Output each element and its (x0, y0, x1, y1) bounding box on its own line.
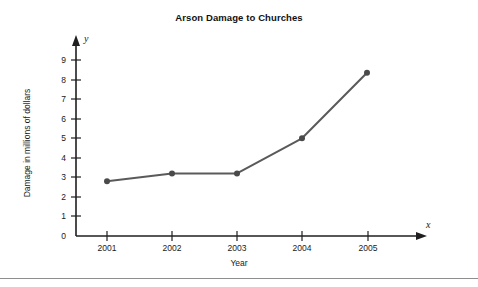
data-point-markers (104, 70, 370, 185)
y-tick-label-3: 3 (50, 172, 66, 182)
y-axis-variable-letter: y (84, 33, 88, 44)
data-point (169, 170, 175, 176)
y-tick-label-0: 0 (50, 231, 66, 241)
x-tick-label-2005: 2005 (345, 243, 391, 253)
x-axis-arrowhead (416, 232, 427, 240)
x-tick-label-2001: 2001 (84, 243, 130, 253)
data-point (104, 178, 110, 184)
x-tick-label-2004: 2004 (279, 243, 325, 253)
y-axis-arrowhead (72, 35, 80, 46)
data-line-series (107, 73, 367, 182)
data-point (234, 170, 240, 176)
x-tick-label-2002: 2002 (149, 243, 195, 253)
y-tick-label-5: 5 (50, 133, 66, 143)
y-tick-label-4: 4 (50, 153, 66, 163)
data-point (299, 135, 305, 141)
chart-figure: Arson Damage to Churches (0, 0, 478, 287)
y-axis-title: Damage in millions of dollars (22, 63, 32, 223)
x-axis-title: Year (0, 258, 478, 268)
y-tick-label-7: 7 (50, 94, 66, 104)
x-axis-variable-letter: x (426, 219, 430, 230)
x-tick-label-2003: 2003 (214, 243, 260, 253)
y-tick-label-1: 1 (50, 211, 66, 221)
page-divider-rule (0, 278, 478, 279)
y-tick-label-6: 6 (50, 114, 66, 124)
y-tick-label-8: 8 (50, 75, 66, 85)
y-tick-label-9: 9 (50, 55, 66, 65)
y-tick-label-2: 2 (50, 192, 66, 202)
data-point (364, 70, 370, 76)
